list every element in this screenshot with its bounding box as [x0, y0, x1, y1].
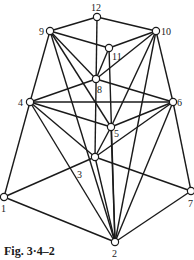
edge-8-4	[30, 79, 96, 102]
node-2	[111, 238, 118, 245]
node-label-12: 12	[91, 2, 101, 13]
edge-5-3	[95, 127, 111, 157]
node-label-9: 9	[39, 26, 44, 37]
edge-8-6	[96, 79, 173, 102]
node-9	[46, 27, 53, 34]
node-label-2: 2	[112, 248, 117, 259]
node-label-5: 5	[114, 128, 119, 139]
edge-10-8	[96, 31, 156, 79]
node-6	[169, 98, 176, 105]
edge-3-7	[95, 157, 191, 191]
node-label-7: 7	[188, 198, 193, 209]
edge-10-2	[115, 31, 156, 242]
node-3	[91, 153, 98, 160]
truss-diagram: 123456789101112 Fig. 3·4–2	[0, 0, 194, 260]
node-label-11: 11	[112, 51, 122, 62]
truss-edges	[4, 17, 191, 242]
figure-caption: Fig. 3·4–2	[4, 244, 55, 258]
edge-7-2	[115, 191, 191, 242]
edge-6-7	[173, 102, 191, 191]
edge-4-3	[30, 102, 95, 157]
node-8	[92, 75, 99, 82]
node-4	[26, 98, 33, 105]
node-12	[93, 13, 100, 20]
node-10	[152, 27, 159, 34]
node-label-1: 1	[1, 203, 6, 214]
edge-12-10	[97, 17, 156, 31]
edge-9-4	[30, 31, 50, 102]
node-label-4: 4	[18, 97, 23, 108]
node-label-10: 10	[161, 26, 171, 37]
node-1	[0, 193, 7, 200]
node-label-6: 6	[177, 97, 182, 108]
edge-10-6	[156, 31, 173, 102]
edge-4-2	[30, 102, 115, 242]
node-7	[187, 187, 194, 194]
edge-1-2	[4, 197, 115, 242]
edge-4-1	[4, 102, 30, 197]
node-label-8: 8	[97, 84, 102, 95]
node-label-3: 3	[77, 169, 82, 180]
edge-12-9	[50, 17, 97, 31]
